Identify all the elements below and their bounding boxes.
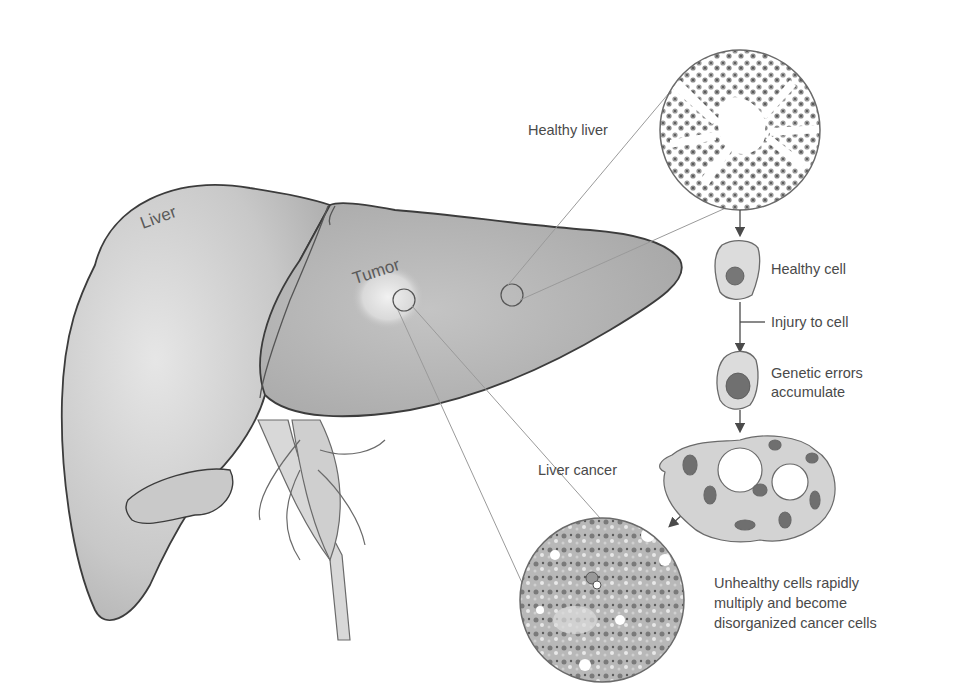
healthy-liver-histology [660,50,820,210]
genetic-errors-label-line2: accumulate [771,383,845,402]
cancer-cell-cluster [660,436,835,542]
healthy-liver-callout: Healthy liver [528,121,608,140]
genetic-error-cell-illustration [717,351,758,409]
liver-cancer-callout: Liver cancer [538,461,617,480]
outcome-line2: multiply and become [714,594,847,613]
liver-cancer-histology [520,518,684,682]
outcome-line1: Unhealthy cells rapidly [714,574,859,593]
healthy-cell-illustration [715,241,760,300]
blood-vessels [258,420,385,640]
outcome-line3: disorganized cancer cells [714,614,877,633]
healthy-cell-label: Healthy cell [771,260,846,279]
liver-cancer-diagram: Liver Tumor Healthy liver Healthy cell I… [0,0,980,700]
liver-right-lobe [260,203,682,416]
injury-to-cell-label: Injury to cell [771,313,848,332]
genetic-errors-label-line1: Genetic errors [771,364,863,383]
